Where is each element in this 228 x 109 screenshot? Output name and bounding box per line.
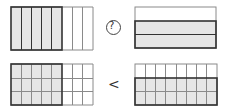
less-than-symbol: <: [108, 77, 120, 91]
fraction-comparison-diagram: [0, 0, 228, 109]
bottom-right-fraction-model: [135, 64, 217, 105]
question-mark-symbol: ?: [109, 21, 114, 31]
top-left-fraction-model: [11, 7, 93, 50]
bottom-left-fraction-model: [11, 64, 93, 105]
top-right-fraction-model: [135, 7, 216, 48]
